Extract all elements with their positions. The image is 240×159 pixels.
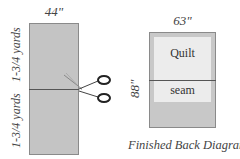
quilt-label: Quilt bbox=[154, 46, 211, 61]
upper-length-label: 1-3/4 yards bbox=[9, 27, 24, 82]
scissors-icon bbox=[62, 70, 112, 110]
back-width-label: 63" bbox=[149, 13, 216, 29]
diagram-caption: Finished Back Diagram bbox=[128, 138, 240, 153]
fabric-width-label: 44" bbox=[29, 4, 79, 20]
seam-label: seam bbox=[154, 83, 211, 98]
seam-line bbox=[149, 80, 216, 81]
back-height-label: 88" bbox=[127, 80, 143, 98]
lower-length-label: 1-3/4 yards bbox=[9, 93, 24, 148]
